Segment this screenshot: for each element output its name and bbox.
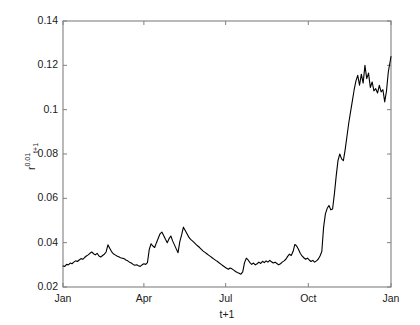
xtick-label-1: Apr xyxy=(119,292,169,304)
y-axis-label-base: r xyxy=(25,167,37,171)
ytick-label-6: 0.14 xyxy=(20,14,58,26)
x-axis-label: t+1 xyxy=(187,308,267,320)
ytick-label-5: 0.12 xyxy=(20,58,58,70)
ytick-label-2: 0.06 xyxy=(20,191,58,203)
y-axis-label: r0.01t+1 xyxy=(24,143,39,170)
xtick-label-2: Jul xyxy=(201,292,251,304)
ytick-label-1: 0.04 xyxy=(20,236,58,248)
xtick-label-0: Jan xyxy=(38,292,88,304)
axes-box xyxy=(63,21,391,287)
xtick-label-4: Jan xyxy=(366,292,416,304)
xtick-label-3: Oct xyxy=(283,292,333,304)
ytick-label-4: 0.1 xyxy=(20,103,58,115)
chart-plot-area xyxy=(0,0,420,325)
data-series-line xyxy=(63,56,391,274)
y-axis-label-superscript: 0.01 xyxy=(24,153,31,167)
figure-container: 0.02 0.04 0.06 0.08 0.1 0.12 0.14 Jan Ap… xyxy=(0,0,420,325)
ytick-label-0: 0.02 xyxy=(20,280,58,292)
y-axis-label-subscript: t+1 xyxy=(32,143,39,153)
axis-ticks xyxy=(63,21,391,287)
